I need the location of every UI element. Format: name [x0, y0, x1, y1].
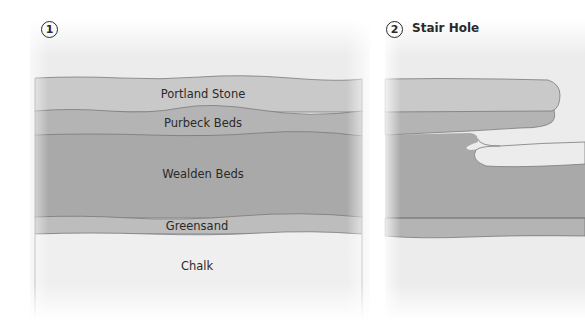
- panel-2-title: Stair Hole: [412, 21, 479, 35]
- layer-label-greensand: Greensand: [166, 219, 228, 233]
- layer-label-portland-stone: Portland Stone: [161, 87, 246, 101]
- layer-label-chalk: Chalk: [181, 259, 213, 273]
- layer-label-wealden-beds: Wealden Beds: [162, 167, 244, 181]
- geology-diagram: [0, 0, 585, 320]
- panel-2-number-badge: 2: [386, 21, 403, 38]
- panel-2-stair-hole: [380, 20, 585, 320]
- layer-label-purbeck-beds: Purbeck Beds: [164, 116, 242, 130]
- panel-1-number-badge: 1: [41, 21, 58, 38]
